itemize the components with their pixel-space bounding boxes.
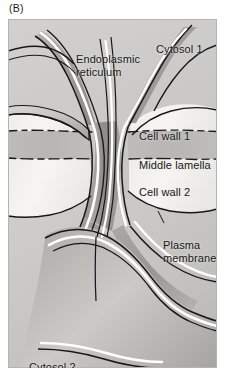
panel-label: (B)	[9, 2, 24, 15]
label-cytosol-1: Cytosol 1	[156, 43, 203, 56]
label-middle-lamella: Middle lamella	[139, 159, 211, 172]
label-cell-wall-2: Cell wall 2	[139, 186, 190, 199]
illustration-plate: Endoplasmic reticulum Cytosol 1 Cell wal…	[8, 19, 217, 368]
middle-lamella-band	[8, 131, 91, 159]
label-cell-wall-1: Cell wall 1	[139, 130, 190, 143]
figure-plasmodesma: (B)	[0, 0, 225, 377]
label-plasma-membrane: Plasma membrane	[163, 239, 216, 265]
label-endoplasmic-reticulum: Endoplasmic reticulum	[76, 53, 140, 79]
label-cytosol-2: Cytosol 2	[29, 361, 76, 368]
